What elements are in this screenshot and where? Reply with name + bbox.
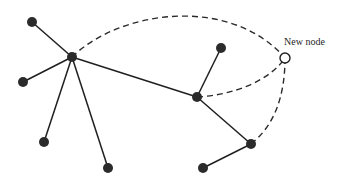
edge-hub2-upper-right bbox=[197, 48, 221, 97]
new-node bbox=[280, 53, 290, 63]
network-diagram: New node bbox=[0, 0, 344, 181]
new-node-label: New node bbox=[284, 36, 325, 47]
node-hub-3 bbox=[246, 139, 256, 149]
node-leaf-bottom-right bbox=[198, 163, 208, 173]
edge-hub3-bottom-right bbox=[203, 144, 251, 168]
edge-hub1-hub2 bbox=[72, 57, 197, 97]
dashed-edge-new-hub3 bbox=[251, 58, 285, 144]
edge-top-left-hub1 bbox=[32, 22, 72, 57]
dashed-edge-new-hub2 bbox=[197, 58, 285, 97]
node-leaf-bottom-mid bbox=[103, 163, 113, 173]
dashed-edges bbox=[72, 16, 285, 144]
node-hub-2 bbox=[192, 92, 202, 102]
node-leaf-left bbox=[18, 77, 28, 87]
node-leaf-top-left bbox=[27, 17, 37, 27]
dashed-edge-new-hub1 bbox=[72, 16, 285, 58]
node-leaf-upper-right bbox=[216, 43, 226, 53]
edge-hub2-hub3 bbox=[197, 97, 251, 144]
node-hub-1 bbox=[67, 52, 77, 62]
node-leaf-bottom-left bbox=[39, 137, 49, 147]
solid-edges bbox=[23, 22, 251, 168]
edge-hub1-bottom-mid bbox=[72, 57, 108, 168]
